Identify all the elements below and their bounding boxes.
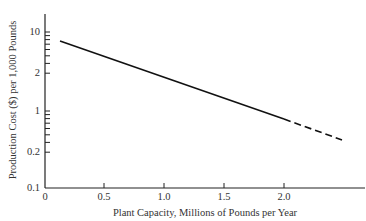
cost-line-solid — [60, 41, 284, 119]
y-ticks — [45, 32, 50, 152]
x-tick-label: 0.5 — [97, 191, 110, 202]
chart: 10 2 1 0.2 0.1 0 0.5 1.0 1.5 2.0 Plant C… — [0, 0, 366, 221]
y-tick-label: 2 — [35, 67, 40, 78]
x-axis-label: Plant Capacity, Millions of Pounds per Y… — [113, 207, 298, 218]
cost-line-dashed — [284, 119, 342, 140]
x-ticks — [104, 183, 284, 188]
y-tick-label: 0.1 — [27, 182, 40, 193]
y-tick-label: 0.2 — [27, 146, 40, 157]
x-tick-label: 1.0 — [157, 191, 170, 202]
x-tick-label: 0 — [42, 191, 47, 202]
x-tick-label: 2.0 — [277, 191, 290, 202]
y-tick-label: 10 — [30, 26, 41, 37]
x-tick-label: 1.5 — [217, 191, 230, 202]
y-tick-label: 1 — [35, 105, 40, 116]
y-axis-label: Production Cost ($) per 1,000 Pounds — [7, 21, 19, 180]
